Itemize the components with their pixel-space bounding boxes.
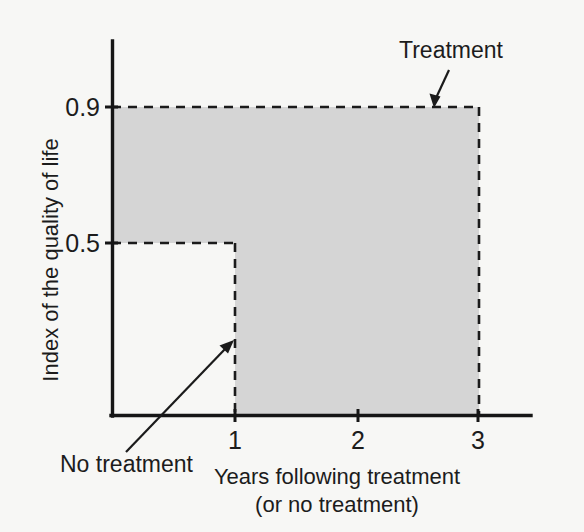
quality-of-life-chart: 0.9 0.5 1 2 3 Index of the quality of li… — [0, 0, 584, 532]
y-tick-label-0-5: 0.5 — [65, 229, 100, 257]
x-axis-title-line-1: Years following treatment — [214, 464, 460, 489]
chart-figure: 0.9 0.5 1 2 3 Index of the quality of li… — [0, 0, 584, 532]
no-treatment-annotation-arrow-shaft — [126, 348, 226, 452]
no-treatment-dashed-outline-group — [112, 243, 235, 415]
x-tick-labels-group: 1 2 3 — [228, 426, 485, 454]
y-tick-labels-group: 0.9 0.5 — [65, 93, 100, 257]
x-tick-label-3: 3 — [471, 426, 485, 454]
treatment-annotation-label: Treatment — [399, 37, 504, 63]
x-tick-label-1: 1 — [228, 426, 242, 454]
no-treatment-annotation-label: No treatment — [60, 451, 194, 477]
treatment-gain-shaded-area — [112, 107, 479, 415]
x-axis-title-group: Years following treatment (or no treatme… — [214, 464, 460, 517]
no-treatment-annotation-group: No treatment — [60, 340, 234, 477]
y-axis-title: Index of the quality of life — [38, 138, 63, 381]
y-tick-label-0-9: 0.9 — [65, 93, 100, 121]
x-axis-title-line-2: (or no treatment) — [255, 492, 419, 517]
shaded-area-group — [112, 107, 479, 415]
treatment-annotation-arrow-shaft — [436, 70, 449, 98]
treatment-annotation-group: Treatment — [399, 37, 504, 108]
x-tick-label-2: 2 — [351, 426, 365, 454]
